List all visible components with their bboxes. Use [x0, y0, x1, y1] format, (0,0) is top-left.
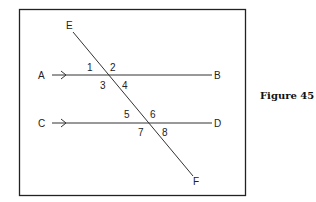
angle-label-2: 2: [110, 62, 116, 73]
figure-caption: Figure 45: [260, 90, 314, 101]
point-label-d: D: [214, 118, 221, 129]
point-label-a: A: [38, 70, 45, 81]
angle-label-1: 1: [87, 62, 93, 73]
point-label-e: E: [66, 20, 73, 31]
angle-label-4: 4: [122, 80, 128, 91]
angle-label-7: 7: [138, 127, 144, 138]
point-label-c: C: [38, 118, 45, 129]
diagram-canvas: E A B C D F 1 2 3 4 5 6 7 8: [0, 0, 316, 202]
angle-label-8: 8: [162, 127, 168, 138]
frame-border: [20, 10, 246, 196]
angle-label-6: 6: [150, 109, 156, 120]
point-label-b: B: [214, 70, 221, 81]
point-label-f: F: [193, 176, 199, 187]
transversal-ef: [73, 32, 193, 176]
angle-label-3: 3: [100, 80, 106, 91]
angle-label-5: 5: [124, 109, 130, 120]
